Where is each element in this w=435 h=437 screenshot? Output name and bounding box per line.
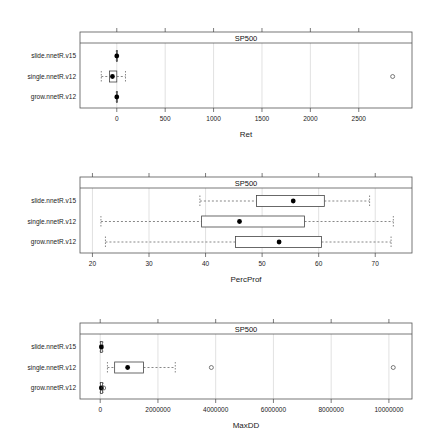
tick-label: 20 [89, 260, 97, 267]
tick-label: 60 [315, 260, 323, 267]
box-grow.nnetR.v12 [105, 237, 391, 248]
tick-label: 50 [259, 260, 267, 267]
tick-label: 4000000 [203, 406, 229, 413]
median-dot [237, 219, 242, 224]
tick-label: 70 [372, 260, 380, 267]
panel-border [80, 32, 412, 108]
category-label: single.nnetR.v12 [28, 73, 77, 81]
outlier-point [391, 75, 395, 79]
box-single.nnetR.v12 [101, 216, 393, 227]
iqr-box [202, 216, 305, 227]
category-label: single.nnetR.v12 [28, 218, 77, 226]
panel-percprof: SP500203040506070PercProfslide.nnetR.v15… [28, 173, 412, 284]
median-dot [277, 240, 282, 245]
box-slide.nnetR.v15 [99, 342, 104, 353]
category-label: single.nnetR.v12 [28, 364, 77, 372]
tick-label: 1500 [255, 115, 270, 122]
panel-ret: SP50005001000150020002500Retslide.nnetR.… [28, 28, 412, 139]
tick-label: 0 [115, 115, 119, 122]
category-label: grow.nnetR.v12 [31, 93, 77, 101]
tick-label: 0 [98, 406, 102, 413]
box-slide.nnetR.v15 [114, 51, 119, 62]
median-dot [291, 199, 296, 204]
axis-label: PercProf [230, 275, 262, 284]
box-grow.nnetR.v12 [114, 92, 119, 103]
box-single.nnetR.v12 [101, 71, 394, 82]
median-dot [99, 345, 104, 350]
box-slide.nnetR.v15 [200, 196, 370, 207]
category-label: slide.nnetR.v15 [31, 197, 76, 204]
strip-title: SP500 [235, 325, 258, 334]
category-label: grow.nnetR.v12 [31, 384, 77, 392]
boxplot-figure: SP50005001000150020002500Retslide.nnetR.… [0, 0, 435, 437]
median-dot [114, 54, 119, 59]
category-label: slide.nnetR.v15 [31, 52, 76, 59]
strip-title: SP500 [235, 34, 258, 43]
outlier-point [391, 366, 395, 370]
median-dot [110, 74, 115, 79]
tick-label: 40 [202, 260, 210, 267]
category-label: grow.nnetR.v12 [31, 238, 77, 246]
axis-label: MaxDD [233, 421, 260, 430]
iqr-box [256, 196, 324, 207]
tick-label: 2000 [303, 115, 318, 122]
panel-maxdd: SP50002000000400000060000008000000100000… [28, 319, 412, 430]
axis-label: Ret [240, 130, 253, 139]
tick-label: 2000000 [145, 406, 171, 413]
tick-label: 2500 [352, 115, 367, 122]
tick-label: 500 [160, 115, 171, 122]
strip-title: SP500 [235, 179, 258, 188]
tick-label: 10000000 [374, 406, 403, 413]
tick-label: 8000000 [319, 406, 345, 413]
tick-label: 1000 [206, 115, 221, 122]
outlier-point [209, 366, 213, 370]
category-label: slide.nnetR.v15 [31, 343, 76, 350]
box-single.nnetR.v12 [107, 362, 395, 373]
median-dot [114, 95, 119, 100]
tick-label: 30 [145, 260, 153, 267]
tick-label: 6000000 [261, 406, 287, 413]
median-dot [125, 365, 130, 370]
